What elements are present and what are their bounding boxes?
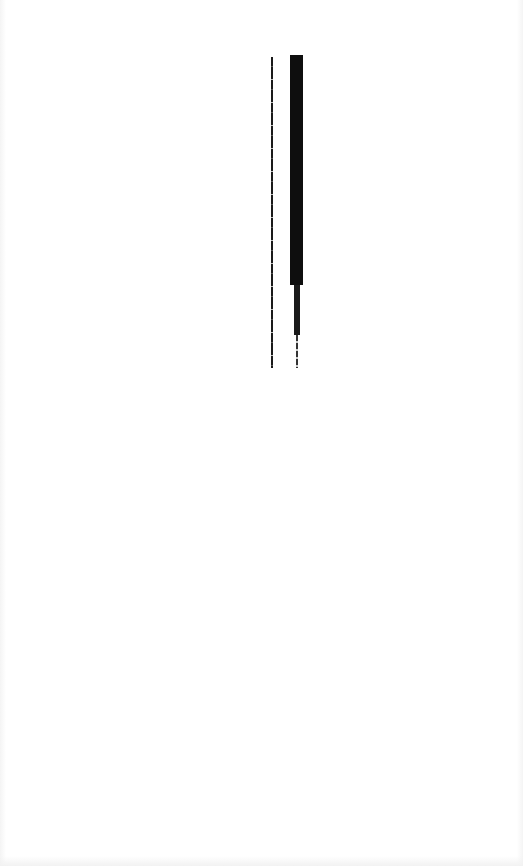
page-edge-right bbox=[517, 0, 523, 866]
thick-bar-tail bbox=[296, 335, 298, 368]
thick-bar-upper bbox=[290, 55, 303, 285]
blank-page bbox=[0, 0, 523, 866]
page-edge-bottom bbox=[0, 856, 523, 866]
thick-vertical-bar bbox=[290, 55, 303, 368]
page-edge-left bbox=[0, 0, 6, 866]
thin-vertical-line bbox=[271, 57, 273, 368]
thick-bar-taper bbox=[294, 285, 300, 335]
